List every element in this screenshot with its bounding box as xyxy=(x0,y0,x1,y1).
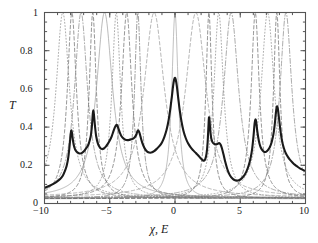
resonance-curve xyxy=(45,13,306,198)
y-tick-label-02: 0.2 xyxy=(20,160,33,170)
resonance-curve xyxy=(45,13,306,198)
resonance-curve xyxy=(45,13,306,198)
resonance-curve xyxy=(45,13,306,198)
y-axis-label: T xyxy=(9,98,16,113)
main-curve-group xyxy=(45,78,306,188)
x-axis-label: χ, E xyxy=(0,222,318,237)
resonance-curve xyxy=(45,13,306,198)
x-tick-label-0: 0 xyxy=(171,206,176,216)
y-tick-label-06: 0.6 xyxy=(20,84,33,94)
x-tick-label-neg5: −5 xyxy=(101,206,112,216)
main-transmission-curve xyxy=(45,78,306,188)
resonance-curve xyxy=(45,13,306,197)
y-tick-label-04: 0.4 xyxy=(20,122,33,132)
resonance-curve xyxy=(45,13,306,198)
resonance-curve xyxy=(45,13,306,198)
resonance-curve xyxy=(45,13,306,199)
resonance-curve xyxy=(45,13,306,198)
figure-container: T χ, E 1 0.8 0.6 0.4 0.2 0 −10 −5 0 5 10 xyxy=(0,0,318,243)
resonance-curve xyxy=(45,13,306,198)
x-tick-label-neg10: −10 xyxy=(33,206,49,216)
resonance-curve xyxy=(45,13,306,198)
resonance-curve xyxy=(45,13,306,198)
resonance-curve xyxy=(45,13,306,198)
x-tick-label-10: 10 xyxy=(299,206,309,216)
resonance-curve xyxy=(45,13,306,199)
y-tick-label-08: 0.8 xyxy=(20,46,33,56)
x-tick-label-5: 5 xyxy=(237,206,242,216)
resonance-curve xyxy=(45,13,306,197)
resonance-curve-group xyxy=(45,13,306,199)
y-tick-label-1: 1 xyxy=(33,8,38,18)
resonance-curve xyxy=(45,13,306,199)
resonance-curve xyxy=(45,13,306,198)
